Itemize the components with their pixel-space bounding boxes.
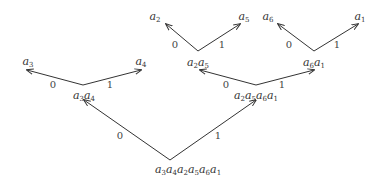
edge-bit-label: 0 <box>50 80 56 90</box>
node-label-a5: a5 <box>238 11 249 24</box>
node-label-root: a3a4a2a5a6a1 <box>155 164 221 177</box>
edge-bit-label: 0 <box>223 80 229 90</box>
node-label-a2: a2 <box>149 11 160 24</box>
edge-arrow <box>278 24 314 51</box>
tree-edges <box>0 0 383 182</box>
node-label-a4: a4 <box>135 56 146 69</box>
node-label-n2561: a2a5a6a1 <box>234 90 278 103</box>
edge-bit-label: 1 <box>107 80 113 90</box>
edge-arrow <box>84 100 170 160</box>
node-label-n25: a2a5 <box>187 57 209 70</box>
edge-bit-label: 1 <box>215 131 221 141</box>
node-label-a6: a6 <box>262 11 273 24</box>
edge-bit-label: 1 <box>334 40 340 50</box>
edge-arrow <box>166 24 198 51</box>
edge-arrow <box>170 100 256 160</box>
node-label-n61: a6a1 <box>303 57 325 70</box>
edge-bit-label: 0 <box>172 40 178 50</box>
node-label-a3: a3 <box>22 56 33 69</box>
edge-bit-label: 1 <box>219 40 225 50</box>
edge-bit-label: 0 <box>286 40 292 50</box>
edge-bit-label: 0 <box>117 131 123 141</box>
node-label-a1: a1 <box>354 11 365 24</box>
node-label-n34: a3a4 <box>73 90 95 103</box>
edge-bit-label: 1 <box>279 80 285 90</box>
